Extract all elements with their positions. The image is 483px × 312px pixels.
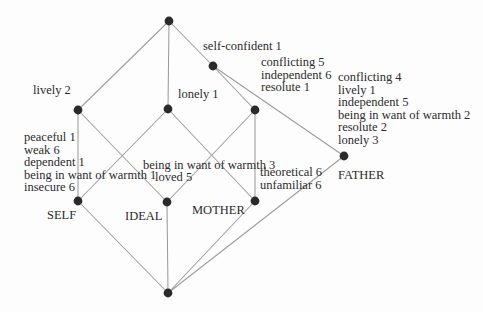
- label-lively-attributes: lively 2: [33, 84, 71, 97]
- label-line: resolute 1: [261, 81, 331, 94]
- label-ideal-attributes-line2: loved 5: [155, 171, 192, 184]
- label-lonely-attributes: lonely 1: [178, 88, 219, 101]
- label-line: lonely 1: [178, 88, 219, 101]
- label-layer: self-confident 1conflicting 5independent…: [0, 0, 483, 312]
- label-father-attributes: conflicting 4lively 1independent 5being …: [338, 71, 470, 147]
- label-line: loved 5: [155, 171, 192, 184]
- label-self-confident-attributes: self-confident 1: [203, 40, 282, 53]
- label-mother-attributes: theoretical 6unfamiliar 6: [260, 166, 322, 191]
- label-line: dependent 1: [24, 156, 156, 169]
- label-object-father: FATHER: [338, 169, 384, 182]
- label-line: FATHER: [338, 169, 384, 182]
- label-line: self-confident 1: [203, 40, 282, 53]
- label-line: lively 2: [33, 84, 71, 97]
- label-line: conflicting 5: [261, 56, 331, 69]
- label-object-mother: MOTHER: [192, 204, 245, 217]
- label-line: conflicting 4: [338, 71, 470, 84]
- label-line: MOTHER: [192, 204, 245, 217]
- label-line: peaceful 1: [24, 131, 156, 144]
- label-line: lonely 3: [338, 134, 470, 147]
- label-object-ideal: IDEAL: [125, 210, 163, 223]
- label-line: insecure 6: [24, 181, 156, 194]
- label-line: unfamiliar 6: [260, 179, 322, 192]
- label-line: theoretical 6: [260, 166, 322, 179]
- label-line: IDEAL: [125, 210, 163, 223]
- label-line: independent 5: [338, 96, 470, 109]
- label-object-self: SELF: [47, 209, 76, 222]
- label-self-attributes: peaceful 1weak 6dependent 1being in want…: [24, 131, 156, 194]
- concept-lattice-figure: self-confident 1conflicting 5independent…: [0, 0, 483, 312]
- label-conflicting-node-attributes: conflicting 5independent 6resolute 1: [261, 56, 331, 94]
- label-line: SELF: [47, 209, 76, 222]
